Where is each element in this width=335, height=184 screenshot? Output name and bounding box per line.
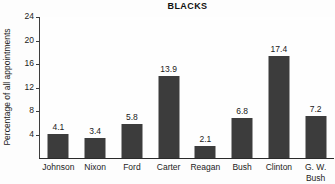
y-axis-tick-label: 4 xyxy=(29,129,34,139)
x-axis-category-line: Nixon xyxy=(84,162,106,172)
x-axis-category-line: Carter xyxy=(157,162,181,172)
bar[interactable] xyxy=(195,146,216,158)
y-axis-tick: 8 xyxy=(0,111,40,112)
y-axis-tick-label: 8 xyxy=(29,105,34,115)
x-axis-category-line: Johnson xyxy=(42,162,74,172)
bar-group[interactable]: 2.1 xyxy=(187,17,223,158)
x-axis-category-label: G. W.Bush xyxy=(293,162,335,183)
bar[interactable] xyxy=(48,134,69,158)
bar-group[interactable]: 4.1 xyxy=(40,17,76,158)
bar-group[interactable]: 7.2 xyxy=(298,17,334,158)
bar-group[interactable]: 6.8 xyxy=(224,17,260,158)
y-axis-tick: 4 xyxy=(0,135,40,136)
bar-group[interactable]: 3.4 xyxy=(77,17,113,158)
y-axis-tick: 20 xyxy=(0,41,40,42)
bar[interactable] xyxy=(232,118,253,158)
bar[interactable] xyxy=(158,76,179,158)
y-axis-tick-label: 12 xyxy=(25,82,34,92)
x-axis-category-line: Bush xyxy=(232,162,251,172)
y-axis-tick: 16 xyxy=(0,64,40,65)
bar-value-label: 5.8 xyxy=(126,112,138,122)
bar[interactable] xyxy=(121,124,142,158)
bar-value-label: 7.2 xyxy=(310,104,322,114)
y-axis-tick: 12 xyxy=(0,88,40,89)
bar-value-label: 3.4 xyxy=(89,126,101,136)
bar-group[interactable]: 13.9 xyxy=(151,17,187,158)
chart-title: BLACKS xyxy=(40,1,335,11)
bar-chart-figure: BLACKS Percentage of all appointments 48… xyxy=(0,0,335,184)
bar[interactable] xyxy=(268,56,289,158)
x-axis-category-line: Ford xyxy=(123,162,140,172)
bar[interactable] xyxy=(85,138,106,158)
bar[interactable] xyxy=(305,116,326,158)
bar-value-label: 13.9 xyxy=(160,64,177,74)
bar-value-label: 4.1 xyxy=(52,122,64,132)
bar-value-label: 17.4 xyxy=(271,44,288,54)
y-axis-tick-label: 24 xyxy=(25,11,34,21)
x-axis-category-line: G. W. xyxy=(305,162,326,172)
bar-group[interactable]: 17.4 xyxy=(261,17,297,158)
x-axis-category-line: Clinton xyxy=(266,162,292,172)
x-axis-category-line: Bush xyxy=(293,173,335,184)
x-axis-line xyxy=(39,158,334,159)
y-axis-tick-label: 20 xyxy=(25,35,34,45)
bar-group[interactable]: 5.8 xyxy=(114,17,150,158)
bar-value-label: 2.1 xyxy=(199,134,211,144)
bar-value-label: 6.8 xyxy=(236,106,248,116)
y-axis-tick-label: 16 xyxy=(25,58,34,68)
plot-area: 4.13.45.813.92.16.817.47.2 xyxy=(40,17,334,158)
x-axis-category-line: Reagan xyxy=(190,162,220,172)
y-axis-tick: 24 xyxy=(0,17,40,18)
